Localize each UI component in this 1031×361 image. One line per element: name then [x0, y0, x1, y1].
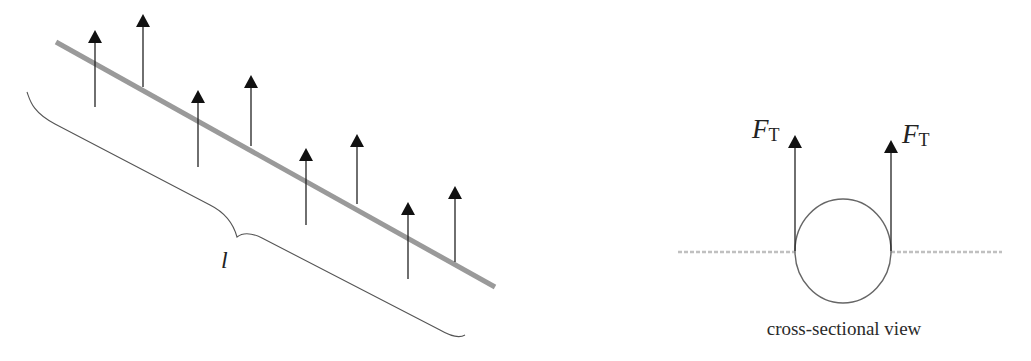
cross-section-caption: cross-sectional view	[767, 318, 922, 339]
arrow-up-icon	[191, 90, 205, 103]
arrow-up-icon	[350, 134, 364, 147]
force-label-right: FT	[901, 119, 930, 150]
force-arrow-6	[350, 134, 364, 204]
length-label: l	[221, 247, 228, 273]
rod	[56, 42, 495, 287]
tension-arrow-right	[884, 140, 898, 251]
length-brace	[27, 92, 465, 337]
rod-cross-section-circle	[795, 199, 891, 303]
arrow-up-icon	[299, 148, 313, 161]
arrow-up-icon	[401, 202, 415, 215]
arrow-up-icon	[448, 186, 462, 199]
force-arrow-2	[136, 14, 150, 87]
arrow-up-icon	[244, 75, 258, 88]
force-arrow-4	[244, 75, 258, 146]
rod-panel: l	[27, 14, 495, 337]
arrow-up-icon	[788, 135, 802, 148]
arrow-up-icon	[884, 140, 898, 153]
arrow-up-icon	[136, 14, 150, 27]
arrow-up-icon	[88, 30, 102, 43]
tension-arrow-left	[788, 135, 802, 251]
tension-force-arrows	[788, 135, 898, 251]
force-label-left: FT	[751, 114, 780, 145]
force-arrow-8	[448, 186, 462, 262]
force-arrow-3	[191, 90, 205, 167]
surface-tension-diagram: l FT FT cross-sectional view	[0, 0, 1031, 361]
cross-section-panel: FT FT cross-sectional view	[678, 114, 1002, 339]
